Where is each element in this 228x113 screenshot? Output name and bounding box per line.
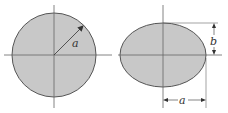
diagram-canvas: a b a <box>0 0 228 113</box>
a-arrow-left-icon <box>163 98 168 102</box>
ellipse-figure: b a <box>118 5 222 108</box>
b-arrow-bottom-icon <box>212 50 216 55</box>
b-arrow-top-icon <box>212 23 216 28</box>
radius-label: a <box>72 37 79 50</box>
a-arrow-right-icon <box>201 98 206 102</box>
b-label: b <box>210 35 217 48</box>
a-label: a <box>179 94 186 107</box>
circle-figure: a <box>4 5 112 108</box>
